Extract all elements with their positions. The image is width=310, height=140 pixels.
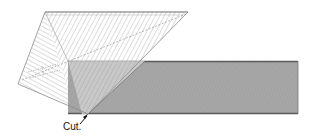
cut-label: Cut. [63, 121, 81, 133]
fold-diagram [0, 0, 310, 140]
